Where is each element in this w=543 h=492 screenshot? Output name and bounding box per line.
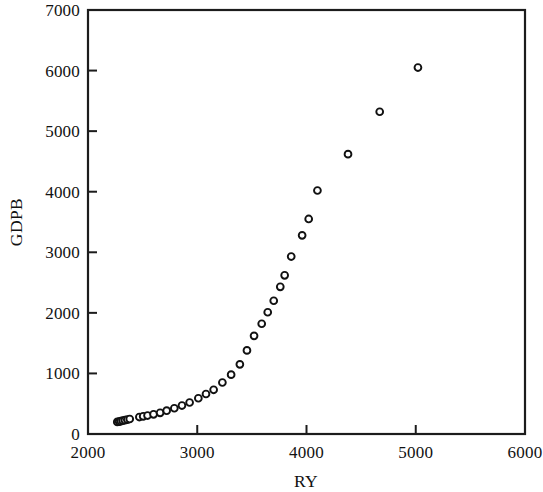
- data-point: [186, 399, 193, 406]
- y-tick-label: 7000: [45, 1, 80, 20]
- y-tick-label: 3000: [45, 243, 80, 262]
- data-point: [171, 405, 178, 412]
- data-point: [376, 108, 383, 115]
- data-point: [228, 371, 235, 378]
- data-point: [305, 216, 312, 223]
- data-point: [195, 395, 202, 402]
- data-point: [299, 232, 306, 239]
- x-tick-label: 2000: [71, 443, 106, 462]
- x-tick-label: 4000: [289, 443, 324, 462]
- y-tick-label: 4000: [45, 183, 80, 202]
- data-point: [258, 320, 265, 327]
- y-tick-label: 5000: [45, 122, 80, 141]
- y-tick-label: 6000: [45, 62, 80, 81]
- data-point: [277, 283, 284, 290]
- data-point: [179, 402, 186, 409]
- data-point: [210, 386, 217, 393]
- data-point: [203, 391, 210, 398]
- data-point: [219, 379, 226, 386]
- y-tick-label: 2000: [45, 304, 80, 323]
- data-point: [251, 332, 258, 339]
- plot-canvas: 01000200030004000500060007000 2000300040…: [0, 0, 543, 492]
- data-point: [314, 187, 321, 194]
- data-point: [415, 64, 422, 71]
- x-tick-label: 3000: [180, 443, 215, 462]
- x-tick-label: 5000: [398, 443, 433, 462]
- scatter-plot-figure: 01000200030004000500060007000 2000300040…: [0, 0, 543, 492]
- y-axis-title: GDPB: [6, 198, 26, 246]
- data-point: [281, 272, 288, 279]
- x-axis-title: RY: [294, 471, 318, 491]
- y-tick-label: 1000: [45, 364, 80, 383]
- figure-background: [0, 0, 543, 492]
- x-tick-label: 6000: [508, 443, 543, 462]
- data-point: [236, 361, 243, 368]
- data-point: [163, 407, 170, 414]
- data-point: [288, 253, 295, 260]
- data-point: [270, 297, 277, 304]
- data-point: [126, 416, 133, 423]
- data-point: [244, 347, 251, 354]
- data-point: [345, 151, 352, 158]
- y-tick-label: 0: [71, 425, 80, 444]
- data-point: [264, 309, 271, 316]
